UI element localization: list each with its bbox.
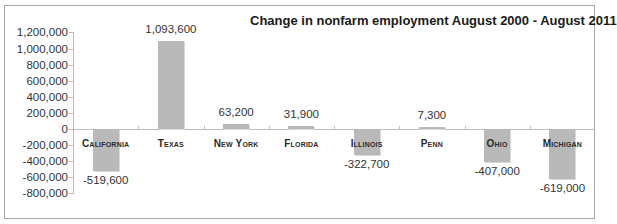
x-tick-mark [399,126,400,130]
data-label: 1,093,600 [145,23,196,35]
x-tick-mark [204,126,205,130]
y-tick-mark [69,129,73,130]
category-label: California [82,138,129,149]
bar-new-york [223,124,249,129]
y-tick-label: 1,000,000 [17,43,68,55]
data-label: -519,600 [83,174,128,186]
x-tick-mark [530,126,531,130]
y-tick-mark [69,193,73,194]
x-tick-mark [334,126,335,130]
category-label: Michigan [543,138,583,149]
y-tick-mark [69,65,73,66]
y-tick-mark [69,97,73,98]
y-tick-mark [69,145,73,146]
data-label: 63,200 [219,106,254,118]
category-label: Ohio [487,138,508,149]
bar-california [93,129,119,171]
y-tick-label: 800,000 [26,59,68,71]
y-tick-label: -200,000 [23,139,68,151]
y-tick-label: 0 [62,123,68,135]
y-tick-mark [69,49,73,50]
data-label: -322,700 [344,158,389,170]
data-label: 7,300 [417,109,446,121]
y-tick-label: -400,000 [23,155,68,167]
y-tick-label: 200,000 [26,107,68,119]
data-label: -619,000 [540,182,585,194]
category-label: Florida [284,138,318,149]
y-tick-label: 400,000 [26,91,68,103]
y-tick-label: -800,000 [23,187,68,199]
y-tick-mark [69,113,73,114]
chart-title: Change in nonfarm employment August 2000… [250,13,617,28]
bar-texas [158,41,184,129]
y-tick-mark [69,81,73,82]
bar-michigan [549,129,575,179]
category-label: New York [214,138,259,149]
x-tick-mark [138,126,139,130]
bar-penn [419,127,445,129]
y-tick-label: 600,000 [26,75,68,87]
y-tick-label: -600,000 [23,171,68,183]
y-axis [73,32,74,194]
x-tick-mark [269,126,270,130]
data-label: 31,900 [284,108,319,120]
category-label: Penn [421,138,443,149]
category-label: Illinois [351,138,383,149]
x-tick-mark [465,126,466,130]
y-tick-mark [69,161,73,162]
bar-florida [288,126,314,129]
y-tick-mark [69,32,73,33]
category-label: Texas [158,138,184,149]
data-label: -407,000 [474,165,519,177]
y-tick-mark [69,177,73,178]
y-tick-label: 1,200,000 [17,26,68,38]
